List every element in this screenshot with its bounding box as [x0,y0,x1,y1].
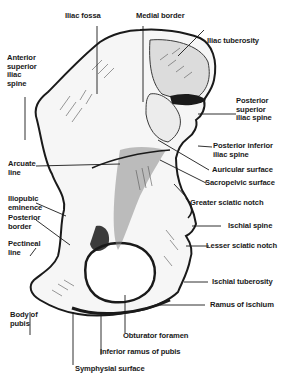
label-greater-sciatic-notch: Greater sciatic notch [190,199,263,208]
label-iliac-tuberosity: Iliac tuberosity [207,37,259,46]
obturator-foramen-shape [85,243,155,302]
label-symphysial-surface: Symphysial surface [75,365,145,374]
label-ramus-of-ischium: Ramus of ischium [210,301,274,310]
label-pectineal-line: Pectineal line [8,240,40,257]
label-posterior-inferior-iliac-spine: Posterior inferior iliac spine [213,142,273,159]
label-obturator-foramen: Obturator foramen [123,332,188,341]
hip-bone-illustration [0,0,281,381]
label-iliopubic-eminence: Iliopubic eminence [8,195,42,212]
label-ischial-tuberosity: Ischial tuberosity [212,278,273,287]
label-lesser-sciatic-notch: Lesser sciatic notch [206,242,277,251]
label-arcuate-line: Arcuate line [8,160,36,177]
label-inferior-ramus-of-pubis: Inferior ramus of pubis [100,348,180,357]
label-auricular-surface: Auricular surface [212,166,273,175]
label-posterior-border: Posterior border [8,214,40,231]
hip-bone-diagram: Iliac fossa Medial border Iliac tuberosi… [0,0,281,381]
label-iliac-fossa: Iliac fossa [65,12,101,21]
label-anterior-superior-iliac-spine: Anterior superior iliac spine [7,54,37,88]
label-posterior-superior-iliac-spine: Posterior superior iliac spine [236,97,272,123]
label-medial-border: Medial border [136,12,185,21]
label-ischial-spine: Ischial spine [228,222,272,231]
label-body-of-pubis: Body of pubis [10,311,38,328]
label-sacropelvic-surface: Sacropelvic surface [205,179,275,188]
